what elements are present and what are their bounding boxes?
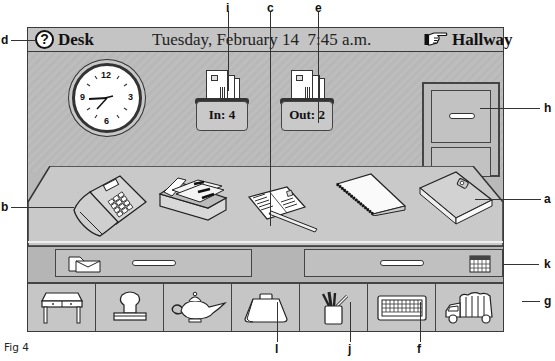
callout-line-a [475, 199, 541, 200]
clock-hands-icon [75, 66, 139, 130]
desk-icon [38, 291, 86, 325]
callout-line-l [277, 302, 278, 342]
envelopes-icon [68, 255, 102, 273]
callout-line-j [350, 302, 351, 342]
callout-line-h [480, 108, 540, 109]
callout-d: d [1, 33, 8, 47]
toolbar-keyboard-button[interactable] [368, 284, 436, 331]
callout-line-c [270, 11, 271, 226]
notepad-icon[interactable] [335, 172, 407, 216]
location-title: Desk [58, 30, 94, 50]
callout-c: c [267, 1, 274, 15]
genie-lamp-icon [169, 291, 227, 325]
pointing-hand-icon[interactable] [424, 31, 448, 47]
figure-caption: Fig 4 [4, 341, 29, 353]
callout-line-i [228, 11, 229, 91]
in-tray[interactable]: In: 4 [196, 101, 248, 131]
callout-line-d [11, 40, 36, 41]
callout-a: a [544, 192, 551, 206]
callout-b: b [1, 200, 8, 214]
address-book-icon[interactable] [418, 170, 494, 226]
callout-line-k [503, 264, 539, 265]
callout-line-f [420, 302, 421, 342]
calendar-drawer[interactable] [304, 249, 503, 277]
toolbar-trash-truck-button[interactable] [436, 284, 503, 331]
toolbar-genie-lamp-button[interactable] [164, 284, 232, 331]
callout-g: g [544, 294, 551, 308]
drawer-handle [380, 260, 424, 266]
hallway-nav-button[interactable]: Hallway [452, 30, 512, 50]
drawer-handle [449, 113, 475, 119]
calendar-icon [469, 255, 491, 273]
callout-i: i [226, 1, 229, 15]
out-tray[interactable]: Out: 2 [281, 101, 333, 131]
mail-drawer[interactable] [55, 249, 252, 277]
callout-line-e [318, 11, 319, 123]
toolbar-pencil-cup-button[interactable] [300, 284, 368, 331]
callout-line-b [11, 207, 74, 208]
date-time: Tuesday, February 14 7:45 a.m. [152, 30, 371, 50]
wall-clock[interactable]: 12 3 6 9 [72, 63, 142, 133]
drawer-handle [132, 260, 176, 266]
toolbar-briefcase-button[interactable] [232, 284, 300, 331]
callout-line-g [522, 301, 540, 302]
callout-j: j [348, 342, 351, 356]
pencil-cup-icon [317, 290, 351, 326]
stamp-icon [110, 291, 150, 325]
toolbar-stamp-button[interactable] [96, 284, 164, 331]
toolbar-desk-button[interactable] [28, 284, 96, 331]
garbage-truck-icon [444, 291, 496, 325]
card-file-icon[interactable] [158, 172, 228, 224]
file-drawer-top[interactable] [431, 90, 491, 143]
briefcase-icon [243, 291, 289, 325]
keyboard-icon [377, 294, 427, 322]
callout-k: k [544, 257, 551, 271]
callout-h: h [544, 101, 551, 115]
telephone-icon[interactable] [72, 172, 148, 238]
callout-e: e [315, 1, 322, 15]
callout-f: f [417, 342, 421, 356]
help-icon[interactable]: ? [35, 30, 54, 49]
postcard-icon[interactable] [247, 185, 319, 233]
callout-l: l [275, 342, 278, 356]
bottom-toolbar [28, 283, 503, 331]
